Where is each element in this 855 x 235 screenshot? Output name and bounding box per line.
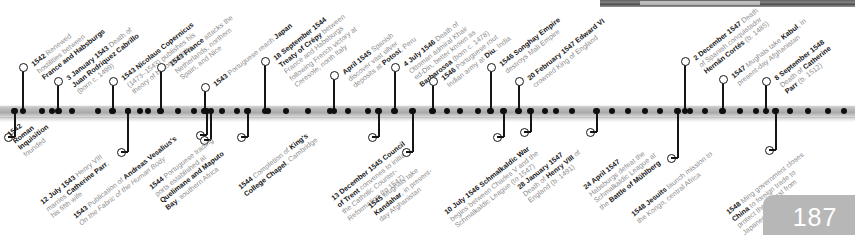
- event-stem-elbow: [406, 151, 413, 153]
- axis-tick-dot: [841, 108, 847, 114]
- axis-tick-dot: [553, 108, 559, 114]
- event-axis-dot: [158, 108, 164, 114]
- axis-tick-dot: [825, 108, 831, 114]
- axis-tick-dot: [475, 108, 481, 114]
- event-axis-dot: [430, 108, 436, 114]
- event-axis-dot: [125, 108, 131, 114]
- event-stem: [432, 82, 434, 110]
- event-axis-dot: [392, 108, 398, 114]
- event-stem: [503, 110, 505, 137]
- event-stem: [518, 82, 520, 110]
- event-stem: [490, 68, 492, 110]
- event-ring-marker[interactable]: [330, 71, 339, 80]
- axis-tick-dot: [457, 108, 463, 114]
- event-stem: [160, 68, 162, 110]
- axis-tick-dot: [39, 108, 45, 114]
- event-axis-dot: [720, 108, 726, 114]
- event-stem: [127, 110, 129, 152]
- axis-tick-dot: [702, 108, 708, 114]
- event-axis-dot: [262, 108, 268, 114]
- axis-tick-dot: [219, 108, 225, 114]
- axis-tick-dot: [787, 108, 793, 114]
- axis-tick-dot: [283, 108, 289, 114]
- axis-tick-dot: [753, 108, 759, 114]
- event-stem-elbow: [524, 131, 531, 133]
- event-ring-marker[interactable]: [54, 77, 63, 86]
- event-axis-dot: [501, 108, 507, 114]
- event-ring-marker[interactable]: [762, 77, 771, 86]
- axis-tick-dot: [542, 108, 548, 114]
- event-stem: [412, 110, 414, 152]
- page-number: 187: [781, 199, 838, 232]
- event-axis-dot: [12, 108, 18, 114]
- event-axis-dot: [594, 108, 600, 114]
- event-stem: [247, 110, 249, 137]
- axis-tick-dot: [234, 108, 240, 114]
- event-axis-dot: [516, 108, 522, 114]
- event-ring-marker[interactable]: [157, 63, 166, 72]
- event-stem: [722, 80, 724, 110]
- event-ring-marker[interactable]: [261, 57, 270, 66]
- event-axis-dot: [675, 108, 681, 114]
- event-stem-elbow: [121, 151, 128, 153]
- axis-tick-dot: [444, 108, 450, 114]
- timeline-page: 1542 Renewedhostilities betweenFrance an…: [0, 0, 855, 235]
- axis-tick-dot: [625, 108, 631, 114]
- axis-tick-dot: [642, 108, 648, 114]
- axis-tick-dot: [95, 108, 101, 114]
- event-stem-elbow: [497, 136, 504, 138]
- event-axis-dot: [245, 108, 251, 114]
- event-label: 1544 Completion of King'sCollege Chapel,…: [237, 129, 319, 199]
- event-ring-marker[interactable]: [719, 75, 728, 84]
- event-stem: [333, 76, 335, 110]
- event-ring-marker[interactable]: [201, 83, 210, 92]
- event-axis-dot: [331, 108, 337, 114]
- event-label: 20 February 1547 Edward VIcrowned King o…: [526, 17, 612, 89]
- event-stem: [112, 82, 114, 110]
- axis-tick-dot: [737, 108, 743, 114]
- event-axis-dot: [376, 108, 382, 114]
- event-stem: [22, 68, 24, 110]
- axis-tick-dot: [569, 108, 575, 114]
- event-stem-elbow: [372, 136, 379, 138]
- event-stem-elbow: [590, 131, 597, 133]
- event-ring-marker[interactable]: [515, 77, 524, 86]
- axis-tick-dot: [69, 108, 75, 114]
- event-axis-dot: [55, 108, 61, 114]
- axis-tick-dot: [609, 108, 615, 114]
- event-axis-dot: [773, 108, 779, 114]
- page-bleed-strip: [600, 0, 855, 7]
- event-axis-dot: [110, 108, 116, 114]
- event-stem: [677, 110, 679, 158]
- event-stem-elbow: [241, 136, 248, 138]
- event-ring-marker[interactable]: [681, 57, 690, 66]
- event-label-line: College Chapel, Cambridge: [242, 136, 319, 199]
- event-stem: [264, 62, 266, 110]
- event-axis-dot: [208, 108, 214, 114]
- axis-tick-dot: [137, 108, 143, 114]
- axis-tick-dot: [805, 108, 811, 114]
- event-axis-dot: [682, 108, 688, 114]
- event-axis-dot: [528, 108, 534, 114]
- event-ring-marker[interactable]: [429, 77, 438, 86]
- event-ring-marker[interactable]: [109, 77, 118, 86]
- event-ring-marker[interactable]: [391, 63, 400, 72]
- event-axis-dot: [410, 108, 416, 114]
- page-number-chip: 187: [763, 195, 855, 235]
- axis-tick-dot: [365, 108, 371, 114]
- axis-tick-dot: [345, 108, 351, 114]
- event-stem: [378, 110, 380, 137]
- event-stem: [684, 62, 686, 110]
- event-axis-dot: [763, 108, 769, 114]
- event-stem: [394, 68, 396, 110]
- axis-tick-dot: [145, 108, 151, 114]
- axis-tick-dot: [305, 108, 311, 114]
- event-label-line: 1544 Completion of King's: [237, 129, 314, 192]
- axis-tick-dot: [175, 108, 181, 114]
- event-stem-elbow: [671, 157, 678, 159]
- axis-tick-dot: [191, 108, 197, 114]
- event-axis-dot: [488, 108, 494, 114]
- event-ring-marker[interactable]: [19, 63, 28, 72]
- axis-tick-dot: [657, 108, 663, 114]
- event-ring-marker[interactable]: [487, 63, 496, 72]
